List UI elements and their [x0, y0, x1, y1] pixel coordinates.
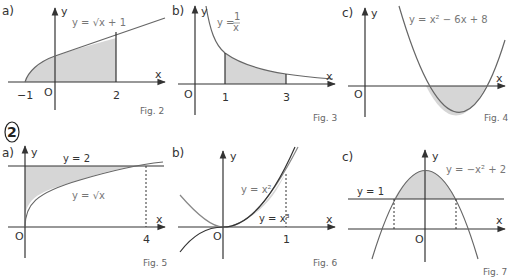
shaded-area: [25, 38, 116, 82]
part-label: c): [342, 6, 353, 20]
equation-label: y = x² − 6x + 8: [409, 14, 488, 25]
axis-y-label: y: [230, 150, 237, 163]
equation-prefix: y =: [217, 17, 234, 28]
origin-label: O: [354, 88, 363, 101]
axis-x-label: x: [155, 68, 162, 81]
origin-label: O: [184, 88, 193, 101]
tick-label: 1: [222, 91, 229, 104]
figure-caption: Fig. 2: [140, 106, 164, 116]
figure-3: b) y x y = 1 x O 1 3 Fig. 3: [172, 4, 337, 123]
axis-x-label: x: [326, 213, 333, 226]
origin-label: O: [15, 230, 24, 243]
line-label: y = 2: [63, 153, 90, 164]
figure-caption: Fig. 4: [484, 113, 508, 123]
axis-y-label: y: [432, 150, 439, 163]
shaded-area: [426, 86, 486, 116]
part-label: b): [172, 146, 184, 160]
equation-label: y = −x² + 2: [446, 164, 506, 175]
axis-x-label: x: [156, 213, 163, 226]
svg-text:2: 2: [7, 124, 17, 140]
axis-y-label: y: [31, 146, 38, 159]
figure-caption: Fig. 5: [143, 258, 167, 268]
tick-label: 2: [113, 89, 120, 102]
tick-label: 4: [143, 233, 150, 246]
equation-denominator: x: [233, 22, 239, 33]
tick-label: −1: [17, 89, 33, 102]
equation-label: y = x²: [241, 184, 272, 195]
equation-label: y = √x + 1: [72, 17, 126, 28]
figures-canvas: a) y x y = √x + 1 −1 O 2 Fig. 2 b) y x y…: [0, 0, 514, 279]
tick-label: 3: [283, 91, 290, 104]
axis-y-label: y: [371, 7, 378, 20]
curve-x3: [180, 147, 295, 252]
part-label: b): [172, 4, 184, 18]
equation-numerator: 1: [234, 11, 240, 22]
figure-caption: Fig. 6: [313, 258, 337, 268]
figure-2: a) y x y = √x + 1 −1 O 2 Fig. 2: [2, 4, 165, 116]
part-label: a): [2, 146, 14, 160]
figure-4: c) y x y = x² − 6x + 8 O Fig. 4: [342, 6, 508, 123]
axis-x-label: x: [496, 72, 503, 85]
line-label: y = 1: [357, 186, 384, 197]
part-label: a): [2, 4, 14, 18]
axis-x-label: x: [326, 70, 333, 83]
shaded-area: [225, 53, 286, 84]
axis-y-label: y: [61, 5, 68, 18]
tick-label: 1: [283, 233, 290, 246]
figure-6: b) y x y = x² y = x³ O 1 Fig. 6: [172, 146, 337, 268]
axis-y-label: y: [201, 5, 208, 18]
figure-caption: Fig. 7: [483, 267, 507, 277]
figure-caption: Fig. 3: [313, 113, 337, 123]
axis-x-label: x: [496, 214, 503, 227]
figure-5: a) y x y = 2 y = √x O 4 Fig. 5: [2, 146, 167, 268]
part-label: c): [342, 150, 353, 164]
origin-label: O: [44, 86, 53, 99]
equation-label-2: y = x³: [259, 213, 290, 224]
equation-label: y = √x: [72, 190, 105, 201]
origin-label: O: [415, 233, 424, 246]
origin-label: O: [213, 230, 222, 243]
exercise-number: 2: [5, 122, 19, 142]
figure-7: c) y x y = −x² + 2 y = 1 O Fig. 7: [342, 150, 507, 277]
